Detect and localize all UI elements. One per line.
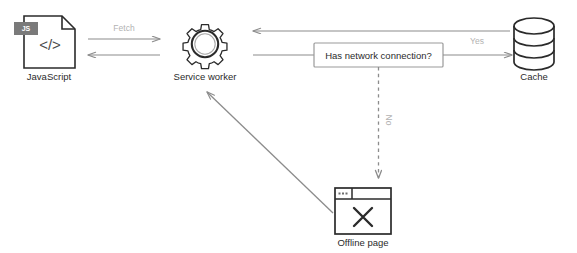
- decision-box-label: Has network connection?: [325, 50, 432, 61]
- browser-dot: [339, 193, 341, 195]
- node-offline-page[interactable]: Offline page: [335, 188, 391, 248]
- node-cache[interactable]: Cache: [514, 18, 554, 82]
- browser-dot: [342, 193, 344, 195]
- js-badge-label: JS: [22, 25, 31, 32]
- node-label-service-worker: Service worker: [174, 71, 237, 82]
- file-code-icon: </> JS: [14, 16, 75, 68]
- edge-offline-fallback: [207, 92, 333, 213]
- node-service-worker[interactable]: Service worker: [174, 25, 237, 82]
- decision-has-network-connection[interactable]: Has network connection?: [314, 43, 443, 67]
- node-label-javascript: JavaScript: [27, 71, 72, 82]
- diagram-canvas: </> JS JavaScript Fetch Service worker: [0, 0, 577, 253]
- node-label-offline-page: Offline page: [337, 237, 388, 248]
- node-javascript[interactable]: </> JS JavaScript: [14, 16, 75, 82]
- service-worker-flow-diagram: </> JS JavaScript Fetch Service worker: [0, 0, 577, 253]
- code-glyph: </>: [39, 36, 61, 53]
- browser-window-error-icon: [335, 188, 391, 234]
- browser-frame: [335, 188, 391, 234]
- gear-icon: [183, 25, 227, 69]
- database-cylinder-icon: [514, 18, 554, 70]
- edge-label-yes: Yes: [470, 36, 484, 46]
- edge-network-yes: Yes: [443, 36, 512, 55]
- edge-network-no: No: [379, 67, 394, 178]
- offline-fallback-arrow: [207, 92, 333, 213]
- edge-fetch-request: Fetch: [88, 23, 160, 39]
- node-label-cache: Cache: [520, 71, 547, 82]
- browser-dot: [346, 193, 348, 195]
- error-x-icon: [354, 208, 372, 226]
- edge-label-no: No: [384, 115, 394, 126]
- edge-label-fetch: Fetch: [113, 23, 135, 33]
